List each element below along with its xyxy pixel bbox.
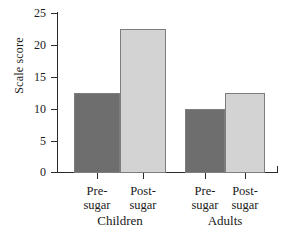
x-label-line1: Post- [217, 184, 273, 198]
x-label-adults-post-sugar: Post- sugar [217, 184, 273, 212]
y-tick-label-15: 15 [6, 71, 46, 83]
x-label-line1: Post- [115, 184, 171, 198]
y-axis-line [57, 12, 58, 173]
x-tick-left-end [57, 166, 58, 173]
x-tick-children-pre-sugar [97, 173, 98, 179]
bar-adults-pre-sugar [185, 109, 225, 173]
x-tick-children-post-sugar [143, 173, 144, 179]
y-tick-label-0: 0 [6, 166, 46, 178]
y-tick-5 [51, 141, 57, 142]
y-tick-10 [51, 109, 57, 110]
y-tick-15 [51, 77, 57, 78]
x-label-children-post-sugar: Post- sugar [115, 184, 171, 212]
bar-adults-post-sugar [225, 93, 265, 173]
y-tick-label-20: 20 [6, 39, 46, 51]
bar-children-post-sugar [120, 29, 166, 173]
plot-area: 25 20 15 10 5 0 Pre- sugar [0, 0, 294, 238]
y-tick-label-25: 25 [6, 7, 46, 19]
group-label-adults: Adults [165, 214, 285, 228]
x-label-line2: sugar [217, 198, 273, 212]
x-tick-adults-post-sugar [245, 173, 246, 179]
y-tick-20 [51, 45, 57, 46]
bar-children-pre-sugar [74, 93, 120, 173]
x-tick-right-end [277, 166, 278, 173]
y-tick-label-10: 10 [6, 103, 46, 115]
bar-chart: Scale score 25 20 15 10 5 0 [0, 0, 294, 238]
y-tick-25 [51, 13, 57, 14]
y-tick-label-5: 5 [6, 135, 46, 147]
group-label-children: Children [60, 214, 180, 228]
x-tick-adults-pre-sugar [205, 173, 206, 179]
x-label-line2: sugar [115, 198, 171, 212]
